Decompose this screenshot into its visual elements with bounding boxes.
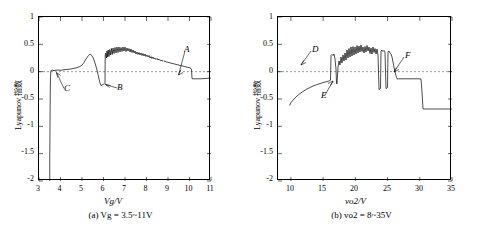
panel-a-annotation-b: B <box>117 82 123 92</box>
panel-a-xtick-6: 6 <box>95 184 111 193</box>
panel-b: Lyapunov 指数 1 0.5 0 -0.5 -1 -1.5 -2 <box>241 0 482 227</box>
panel-b-ytick--1: -1 <box>249 120 273 129</box>
panel-b-xtick-20: 20 <box>346 184 362 193</box>
panel-b-xlabel: vo2/V <box>345 196 366 206</box>
panel-a-xtick-4: 4 <box>52 184 68 193</box>
panel-a-xtick-8: 8 <box>138 184 154 193</box>
panel-b-annotation-d: D <box>312 44 319 54</box>
panel-b-xlabel-text: vo2/V <box>345 196 366 206</box>
panel-a-xtick-7: 7 <box>116 184 132 193</box>
panel-a-xlabel: Vg/V <box>104 196 122 206</box>
panel-a-ytick-0.5: 0.5 <box>6 39 34 48</box>
panel-a-svg <box>39 17 211 181</box>
panel-b-annotation-f: F <box>405 50 411 60</box>
panel-a-ytick--2: -2 <box>10 174 34 183</box>
panel-a-annotation-a: A <box>184 44 190 54</box>
panel-b-ytick--1.5: -1.5 <box>241 147 273 156</box>
panel-a-ytick--1: -1 <box>10 120 34 129</box>
panel-a: Lyapunov 指数 1 0.5 0 -0.5 -1 -1.5 -2 <box>0 0 241 227</box>
panel-a-ytick-1: 1 <box>14 12 34 21</box>
panel-b-annotation-e: E <box>321 90 327 100</box>
panel-a-caption: (a) Vg = 3.5~11V <box>0 210 241 220</box>
panel-b-ytick-0.5: 0.5 <box>245 39 273 48</box>
panel-a-xtick-11: 11 <box>202 184 218 193</box>
panel-a-plot-area <box>38 16 210 180</box>
panel-a-ytick-0: 0 <box>14 66 34 75</box>
panel-b-ytick-1: 1 <box>253 12 273 21</box>
panel-b-xtick-15: 15 <box>314 184 330 193</box>
panel-a-xtick-5: 5 <box>73 184 89 193</box>
panel-a-xtick-9: 9 <box>159 184 175 193</box>
panel-b-plot-area <box>277 16 451 180</box>
panel-b-xtick-30: 30 <box>411 184 427 193</box>
panel-a-xtick-3: 3 <box>30 184 46 193</box>
panel-a-annotation-c: C <box>64 83 70 93</box>
panel-a-xtick-10: 10 <box>181 184 197 193</box>
panel-b-xtick-10: 10 <box>282 184 298 193</box>
panel-b-xtick-35: 35 <box>443 184 459 193</box>
panel-b-xtick-25: 25 <box>379 184 395 193</box>
panel-b-ytick--0.5: -0.5 <box>241 93 273 102</box>
panel-b-ytick--2: -2 <box>249 174 273 183</box>
figure-container: Lyapunov 指数 1 0.5 0 -0.5 -1 -1.5 -2 <box>0 0 482 227</box>
panel-a-ytick--1.5: -1.5 <box>2 147 34 156</box>
panel-b-ytick-0: 0 <box>253 66 273 75</box>
panel-b-caption: (b) vo2 = 8~35V <box>241 210 482 220</box>
panel-a-ytick--0.5: -0.5 <box>2 93 34 102</box>
panel-a-xlabel-text: Vg/V <box>104 196 122 206</box>
panel-b-svg <box>278 17 452 181</box>
